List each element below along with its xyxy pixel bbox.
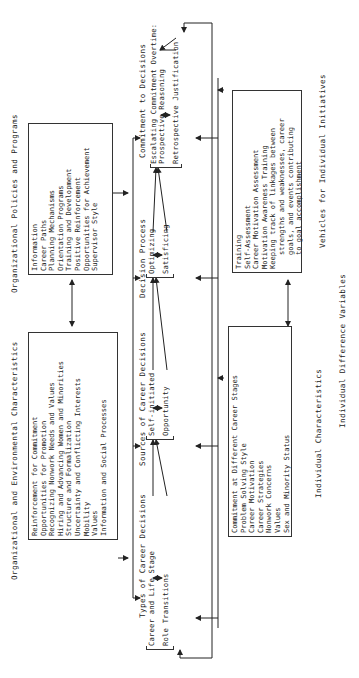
process-item: Optimizing: [148, 229, 157, 274]
vehicles-title: Vehicles for Individual Initiatives: [318, 74, 327, 248]
types-title: Types of Career Decisions: [138, 494, 147, 618]
individual-item: Nonwork Concerns: [265, 330, 274, 533]
process-item: Satisficing: [162, 224, 171, 274]
org-env-item: Mobility: [83, 336, 92, 536]
commitment-item: Retrospective Justification: [172, 42, 181, 164]
org-policies-item: Supervisor Style: [91, 127, 100, 271]
individual-title: Individual Characteristics: [314, 369, 323, 498]
types-item: Role Transitions: [162, 574, 171, 646]
org-policies-box: Information Career Paths Planning Mechan…: [28, 123, 113, 275]
org-env-box: Reinforcement for Commitment Opportuniti…: [28, 332, 118, 540]
career-decision-diagram: Organizational and Environmental Charact…: [0, 0, 359, 678]
org-env-item: Information and Social Processes: [100, 336, 109, 536]
org-policies-title: Organizational Policies and Programs: [10, 114, 19, 293]
vehicles-item: to goal accomplishment: [295, 94, 304, 269]
sources-title: Sources of Career Decisions: [138, 332, 147, 466]
org-env-title: Organizational and Environmental Charact…: [10, 341, 19, 580]
process-bracket: [146, 274, 174, 278]
sources-item: Opportunity: [162, 386, 171, 436]
sources-bracket: [146, 436, 174, 440]
process-title: Decision Process: [138, 218, 147, 298]
footer-label: Individual Difference Variables: [338, 274, 347, 428]
types-item: Career and Life Stage: [148, 551, 157, 646]
commitment-bracket: [150, 164, 182, 168]
individual-item: Sex and Minority Status: [283, 330, 292, 533]
types-bracket: [146, 646, 174, 650]
commitment-title: Commitment to Decisions: [138, 44, 147, 158]
vehicles-box: Training Self-Assessment Career Motivati…: [232, 90, 302, 273]
individual-box: Commitment at Different Career Stages Pr…: [228, 326, 292, 537]
sources-item: Self-initiated: [148, 373, 157, 436]
commitment-item: Prospective Reasoning: [158, 69, 167, 164]
